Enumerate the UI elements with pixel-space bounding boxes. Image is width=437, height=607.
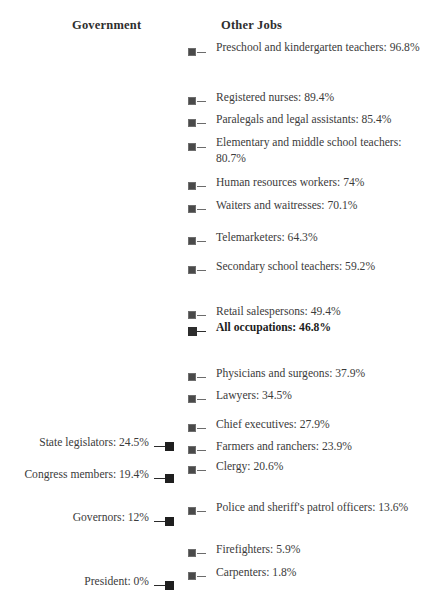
marker-leader-line — [197, 399, 206, 400]
marker-leader-line — [197, 270, 206, 271]
marker-square-icon — [188, 48, 196, 56]
marker-leader-line — [154, 521, 165, 523]
column-header-government: Government — [72, 18, 141, 33]
marker-icon — [188, 237, 214, 246]
data-point-label: Police and sheriff's patrol officers: 13… — [216, 500, 434, 516]
marker-square-icon — [188, 466, 196, 474]
marker-leader-line — [154, 446, 165, 448]
marker-square-icon — [188, 237, 196, 245]
marker-leader-line — [197, 377, 206, 378]
data-point-label: State legislators: 24.5% — [0, 435, 149, 451]
data-point-label: Elementary and middle school teachers: 8… — [216, 135, 434, 166]
marker-icon — [188, 119, 214, 128]
marker-square-icon — [188, 395, 196, 403]
marker-icon — [188, 97, 214, 106]
data-point-label: Farmers and ranchers: 23.9% — [216, 439, 434, 455]
marker-square-icon — [188, 205, 196, 213]
data-point-label: Waiters and waitresses: 70.1% — [216, 198, 434, 214]
data-point-label: All occupations: 46.8% — [216, 320, 434, 336]
marker-icon — [188, 446, 214, 455]
marker-square-icon — [165, 442, 174, 451]
marker-leader-line — [197, 428, 206, 429]
data-point-label: Preschool and kindergarten teachers: 96.… — [216, 40, 434, 56]
data-point-label: Telemarketers: 64.3% — [216, 230, 434, 246]
data-point-label: Firefighters: 5.9% — [216, 542, 434, 558]
marker-icon — [154, 442, 180, 451]
marker-square-icon — [188, 143, 196, 151]
marker-icon — [154, 581, 180, 590]
marker-square-icon — [188, 119, 196, 127]
marker-leader-line — [197, 123, 206, 124]
marker-square-icon — [188, 311, 196, 319]
marker-square-icon — [188, 97, 196, 105]
marker-square-icon — [188, 572, 196, 580]
marker-icon — [188, 143, 214, 152]
marker-icon — [188, 466, 214, 475]
column-header-other-jobs: Other Jobs — [221, 18, 282, 33]
marker-square-icon — [188, 549, 196, 557]
marker-leader-line — [197, 450, 206, 451]
data-point-label: Registered nurses: 89.4% — [216, 90, 434, 106]
data-point-label: Clergy: 20.6% — [216, 459, 434, 475]
marker-square-icon — [188, 373, 196, 381]
marker-leader-line — [197, 147, 206, 148]
marker-square-icon — [165, 474, 174, 483]
data-point-label: Congress members: 19.4% — [0, 467, 149, 483]
marker-icon — [188, 266, 214, 275]
marker-leader-line — [197, 553, 206, 554]
data-point-label: Secondary school teachers: 59.2% — [216, 259, 434, 275]
marker-icon — [188, 424, 214, 433]
marker-icon — [188, 373, 214, 382]
marker-leader-line — [197, 101, 206, 102]
data-point-label: Retail salespersons: 49.4% — [216, 304, 434, 320]
chart-canvas: Government Other Jobs State legislators:… — [0, 0, 437, 607]
data-point-label: Human resources workers: 74% — [216, 175, 434, 191]
data-point-label: Physicians and surgeons: 37.9% — [216, 366, 434, 382]
marker-leader-line — [197, 331, 206, 333]
marker-icon — [188, 549, 214, 558]
marker-square-icon — [188, 446, 196, 454]
marker-icon — [188, 572, 214, 581]
marker-leader-line — [197, 52, 206, 53]
marker-square-icon — [188, 266, 196, 274]
marker-leader-line — [197, 576, 206, 577]
marker-square-icon — [165, 517, 174, 526]
data-point-label: Paralegals and legal assistants: 85.4% — [216, 112, 434, 128]
marker-icon — [188, 327, 214, 336]
data-point-label: Lawyers: 34.5% — [216, 388, 434, 404]
marker-leader-line — [197, 470, 206, 471]
marker-icon — [188, 205, 214, 214]
marker-leader-line — [197, 315, 206, 316]
marker-icon — [188, 311, 214, 320]
marker-square-icon — [188, 507, 196, 515]
data-point-label: Governors: 12% — [0, 510, 149, 526]
marker-square-icon — [188, 327, 197, 336]
marker-icon — [188, 48, 214, 57]
marker-leader-line — [154, 478, 165, 480]
marker-square-icon — [188, 424, 196, 432]
data-point-label: Chief executives: 27.9% — [216, 417, 434, 433]
marker-icon — [154, 474, 180, 483]
marker-icon — [188, 182, 214, 191]
marker-icon — [188, 507, 214, 516]
marker-leader-line — [197, 241, 206, 242]
marker-icon — [154, 517, 180, 526]
marker-leader-line — [197, 209, 206, 210]
data-point-label: Carpenters: 1.8% — [216, 565, 434, 581]
marker-square-icon — [188, 182, 196, 190]
marker-leader-line — [197, 186, 206, 187]
marker-square-icon — [165, 581, 174, 590]
data-point-label: President: 0% — [0, 574, 149, 590]
marker-leader-line — [154, 585, 165, 587]
marker-leader-line — [197, 511, 206, 512]
marker-icon — [188, 395, 214, 404]
